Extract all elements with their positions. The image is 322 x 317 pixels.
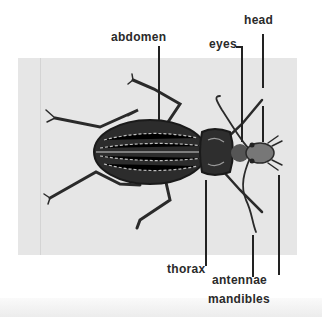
label-head: head (244, 13, 273, 27)
label-eyes: eyes (209, 37, 237, 51)
leader-line-eyes (241, 46, 243, 142)
leader-line-antennae (252, 235, 254, 277)
label-thorax: thorax (167, 262, 205, 276)
leader-line-head-lower (262, 106, 264, 142)
label-abdomen: abdomen (111, 30, 166, 44)
leader-line-mandibles (278, 175, 280, 275)
label-mandibles: mandibles (208, 292, 270, 306)
beetle-illustration (0, 0, 322, 317)
leader-line-thorax (205, 180, 207, 266)
leader-line-eyes-tick (236, 46, 243, 48)
label-antennae: antennae (212, 273, 267, 287)
leader-line-abdomen (158, 46, 160, 120)
leader-line-head-upper (262, 34, 264, 88)
